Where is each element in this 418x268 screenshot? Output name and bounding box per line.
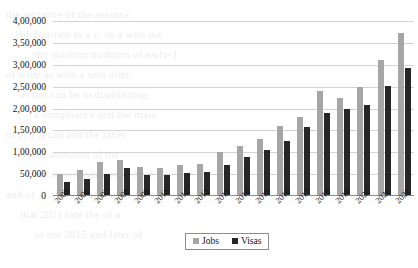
bar-jobs	[357, 87, 363, 196]
y-axis-tick-label: 1,50,000	[13, 125, 46, 135]
grouped-bar-chart: 4,00,0003,50,0003,00,0002,50,0002,00,000…	[0, 0, 418, 268]
plot-area	[53, 21, 414, 196]
bar-jobs	[297, 117, 303, 196]
bar-visas	[405, 68, 411, 196]
x-axis-tick-cell: 2008	[113, 197, 133, 233]
bar-group	[314, 21, 334, 196]
bar-group	[153, 21, 173, 196]
y-axis-tick-label: 0	[41, 191, 46, 201]
bar-group	[214, 21, 234, 196]
bar-group	[294, 21, 314, 196]
y-axis-tick-label: 4,00,000	[13, 16, 46, 26]
y-axis-tick-label: 3,50,000	[13, 38, 46, 48]
bar-group	[254, 21, 274, 196]
x-axis-tick-cell: 2011	[173, 197, 193, 233]
bar-group	[394, 21, 414, 196]
bar-jobs	[277, 126, 283, 196]
x-axis-tick-cell: 2007	[93, 197, 113, 233]
bar-group	[73, 21, 93, 196]
bar-visas	[344, 109, 350, 197]
x-axis: 2005200620072008200920102011201220132014…	[53, 197, 414, 233]
bar-group	[113, 21, 133, 196]
legend-swatch-icon	[193, 238, 199, 244]
legend-item-jobs[interactable]: Jobs	[193, 236, 219, 246]
x-axis-tick-cell: 2020	[354, 197, 374, 233]
bar-jobs	[317, 91, 323, 196]
bar-group	[173, 21, 193, 196]
bar-group	[274, 21, 294, 196]
x-axis-tick-cell: 2021	[374, 197, 394, 233]
x-axis-tick-cell: 2006	[73, 197, 93, 233]
x-axis-tick-cell: 2005	[53, 197, 73, 233]
x-axis-tick-cell: 2010	[153, 197, 173, 233]
legend-item-visas[interactable]: Visas	[232, 236, 262, 246]
bar-group	[53, 21, 73, 196]
bar-group	[193, 21, 213, 196]
x-axis-tick-cell: 2014	[234, 197, 254, 233]
legend-label: Jobs	[202, 236, 219, 246]
x-axis-tick-cell: 2015	[254, 197, 274, 233]
x-axis-tick-cell: 2013	[214, 197, 234, 233]
bar-jobs	[398, 33, 404, 196]
legend-swatch-icon	[232, 238, 238, 244]
x-axis-tick-cell: 2022	[394, 197, 414, 233]
y-axis-tick-label: 3,00,000	[13, 60, 46, 70]
bar-visas	[324, 113, 330, 196]
bar-group	[133, 21, 153, 196]
bar-group	[374, 21, 394, 196]
x-axis-tick-cell: 2012	[193, 197, 213, 233]
x-axis-tick-cell: 2016	[274, 197, 294, 233]
y-axis: 4,00,0003,50,0003,00,0002,50,0002,00,000…	[0, 0, 50, 201]
x-axis-tick-cell: 2017	[294, 197, 314, 233]
bar-visas	[364, 105, 370, 196]
bars-layer	[53, 21, 414, 196]
x-axis-tick-cell: 2019	[334, 197, 354, 233]
bar-jobs	[337, 98, 343, 196]
x-axis-tick-cell: 2018	[314, 197, 334, 233]
legend-label: Visas	[241, 236, 262, 246]
y-axis-tick-label: 50,000	[20, 169, 46, 179]
bar-group	[334, 21, 354, 196]
bar-group	[354, 21, 374, 196]
bar-jobs	[378, 60, 384, 196]
bar-visas	[385, 86, 391, 196]
y-axis-tick-label: 2,50,000	[13, 82, 46, 92]
x-axis-tick-cell: 2009	[133, 197, 153, 233]
bar-group	[234, 21, 254, 196]
bar-group	[93, 21, 113, 196]
y-axis-tick-label: 1,00,000	[13, 147, 46, 157]
chart-legend: JobsVisas	[185, 233, 269, 250]
y-axis-tick-label: 2,00,000	[13, 104, 46, 114]
